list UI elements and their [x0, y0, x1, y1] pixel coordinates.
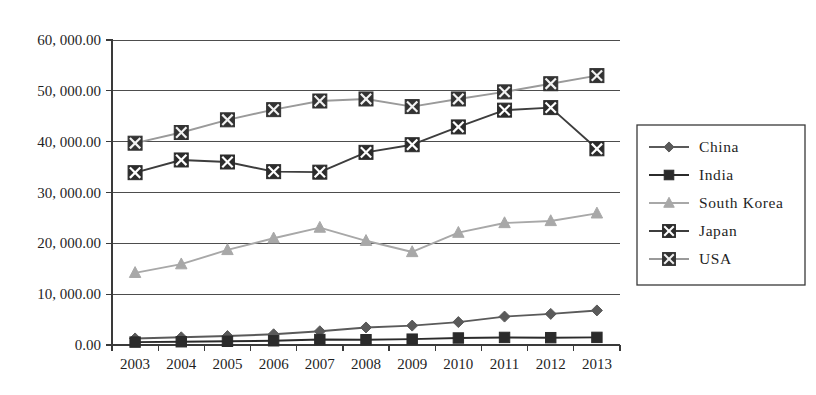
data-point-marker: [591, 207, 602, 218]
y-axis-label: 30, 000.00: [37, 185, 101, 201]
data-point-marker: [314, 221, 325, 232]
x-axis-label: 2004: [166, 356, 197, 372]
data-point-marker: [268, 336, 278, 346]
data-point-marker: [592, 332, 602, 342]
series-south-korea: [129, 207, 602, 277]
x-axis-label: 2008: [351, 356, 381, 372]
data-point-marker: [453, 317, 464, 328]
x-axis-label: 2010: [443, 356, 473, 372]
data-point-marker: [176, 337, 186, 347]
data-point-marker: [545, 308, 556, 319]
data-point-marker: [361, 322, 372, 333]
x-axis-label: 2003: [120, 356, 150, 372]
data-point-marker: [453, 333, 463, 343]
x-axis-tick-labels: 2003200420052006200720082009201020112012…: [120, 356, 612, 372]
legend-item-label: India: [699, 166, 734, 183]
legend-item-label: USA: [699, 250, 732, 267]
y-axis-label: 40, 000.00: [37, 134, 101, 150]
chart-legend: ChinaIndiaSouth KoreaJapanUSA: [637, 125, 805, 285]
x-axis-label: 2011: [490, 356, 519, 372]
data-point-marker: [361, 335, 371, 345]
series-layer: [128, 69, 604, 348]
data-point-marker: [546, 332, 556, 342]
x-axis-label: 2009: [397, 356, 427, 372]
y-axis-label: 0.00: [75, 337, 101, 353]
series-line: [135, 108, 597, 173]
data-point-marker: [499, 311, 510, 322]
x-axis-label: 2007: [305, 356, 336, 372]
y-axis-label: 50, 000.00: [37, 83, 101, 99]
x-axis-label: 2005: [212, 356, 242, 372]
legend-item-label: China: [699, 138, 739, 155]
line-chart: 0.0010, 000.0020, 000.0030, 000.0040, 00…: [0, 0, 816, 395]
chart-container: 0.0010, 000.0020, 000.0030, 000.0040, 00…: [0, 0, 816, 395]
legend-item-label: South Korea: [699, 194, 784, 211]
y-axis-tick-labels: 0.0010, 000.0020, 000.0030, 000.0040, 00…: [37, 32, 101, 353]
series-japan: [128, 101, 604, 180]
y-axis-label: 60, 000.00: [37, 32, 101, 48]
x-axis-label: 2012: [536, 356, 566, 372]
y-axis-label: 10, 000.00: [37, 286, 101, 302]
data-point-marker: [315, 334, 325, 344]
legend-item-label: Japan: [699, 222, 737, 239]
data-point-marker: [407, 320, 418, 331]
y-axis-label: 20, 000.00: [37, 235, 101, 251]
data-point-marker: [222, 336, 232, 346]
x-axis-label: 2006: [259, 356, 290, 372]
data-point-marker: [664, 170, 674, 180]
data-point-marker: [591, 305, 602, 316]
data-point-marker: [499, 332, 509, 342]
x-axis-label: 2013: [582, 356, 612, 372]
data-point-marker: [130, 337, 140, 347]
data-point-marker: [407, 334, 417, 344]
